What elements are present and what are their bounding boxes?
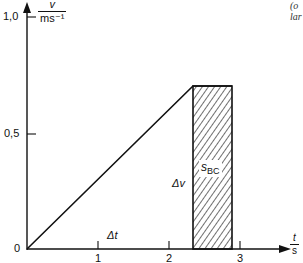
x-tick-label-2: 2 <box>166 253 172 263</box>
origin-label: 0 <box>14 243 20 254</box>
caption-line-1: (o <box>290 0 298 11</box>
y-axis-symbol: v <box>38 0 66 10</box>
delta-t-label: Δt <box>107 230 117 241</box>
x-axis-label: t s <box>290 233 299 256</box>
caption-line-2: lar <box>290 11 302 22</box>
cropped-caption-fragment: (o lar <box>290 1 302 22</box>
y-tick-label-05: 0,5 <box>4 128 19 139</box>
velocity-time-diagram <box>0 0 303 263</box>
y-axis-arrow-icon <box>23 2 31 13</box>
x-axis-symbol: t <box>290 233 299 243</box>
sbc-label: sBC <box>199 160 222 177</box>
y-tick-label-1: 1,0 <box>3 11 18 22</box>
y-axis-label: v ms⁻¹ <box>38 0 66 24</box>
x-axis-unit: s <box>290 246 299 256</box>
x-tick-label-1: 1 <box>95 253 101 263</box>
y-axis-unit: ms⁻¹ <box>38 13 66 24</box>
x-tick-label-3: 3 <box>237 253 243 263</box>
delta-v-label: Δv <box>172 178 185 189</box>
sbc-subscript: BC <box>207 166 220 176</box>
